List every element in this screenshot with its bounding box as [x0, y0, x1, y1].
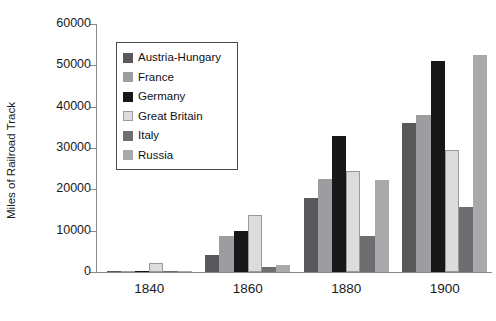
bar: [121, 271, 135, 272]
legend-swatch-icon: [123, 150, 133, 160]
legend-label: Austria-Hungary: [138, 52, 221, 64]
bar: [276, 265, 290, 272]
y-axis-tick-label: 0: [84, 264, 91, 278]
bar: [431, 61, 445, 272]
legend-item: Germany: [123, 87, 237, 107]
bar: [304, 198, 318, 272]
bar: [416, 115, 430, 272]
legend-item: Austria-Hungary: [123, 48, 237, 68]
bar: [248, 215, 262, 272]
railroad-track-bar-chart: Miles of Railroad Track 0100002000030000…: [0, 0, 496, 321]
bar: [262, 267, 276, 272]
bar: [234, 231, 248, 272]
legend-label: Great Britain: [138, 111, 203, 123]
bar-group: [304, 24, 389, 272]
bar: [135, 271, 149, 272]
bar: [445, 150, 459, 272]
legend-label: Germany: [138, 91, 185, 103]
bar: [219, 236, 233, 272]
legend-item: Italy: [123, 126, 237, 146]
legend-item: Great Britain: [123, 107, 237, 127]
bar: [346, 171, 360, 272]
legend-swatch-icon: [123, 131, 133, 141]
bar: [375, 180, 389, 272]
bar: [178, 271, 192, 272]
x-axis-tick-label: 1860: [208, 281, 288, 296]
legend-swatch-icon: [123, 92, 133, 102]
legend-label: France: [138, 72, 174, 84]
y-axis-tick-label: 20000: [56, 181, 91, 195]
legend-label: Russia: [138, 150, 173, 162]
x-axis-line: [96, 272, 492, 273]
y-axis-title: Miles of Railroad Track: [0, 0, 22, 321]
legend-item: France: [123, 68, 237, 88]
bar-group: [402, 24, 487, 272]
x-axis-tick-label: 1900: [405, 281, 485, 296]
legend-item: Russia: [123, 146, 237, 166]
x-axis-tick-label: 1880: [306, 281, 386, 296]
bar: [149, 263, 163, 272]
chart-legend: Austria-HungaryFranceGermanyGreat Britai…: [116, 42, 238, 170]
bar: [107, 271, 121, 272]
y-axis-tick-label: 50000: [56, 57, 91, 71]
y-axis-tick-label: 40000: [56, 99, 91, 113]
bar: [402, 123, 416, 272]
bar: [205, 255, 219, 272]
y-axis-tick-label: 60000: [56, 16, 91, 30]
y-axis-tick-label: 10000: [56, 223, 91, 237]
bar: [163, 271, 177, 272]
x-axis-tick-label: 1840: [109, 281, 189, 296]
bar: [360, 236, 374, 272]
y-axis-tick-label: 30000: [56, 140, 91, 154]
legend-label: Italy: [138, 130, 159, 142]
bar: [473, 55, 487, 272]
bar: [332, 136, 346, 272]
bar: [318, 179, 332, 272]
legend-swatch-icon: [123, 72, 133, 82]
bar: [459, 207, 473, 272]
legend-swatch-icon: [123, 111, 133, 121]
legend-swatch-icon: [123, 53, 133, 63]
